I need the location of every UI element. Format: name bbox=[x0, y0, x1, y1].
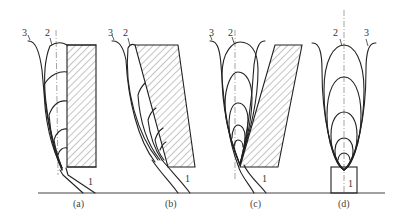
label-1-c: 1 bbox=[262, 173, 267, 184]
panel-d: 2 3 1 (d) bbox=[312, 10, 376, 210]
label-3-d: 3 bbox=[364, 27, 369, 38]
label-3-c: 3 bbox=[209, 27, 214, 38]
workpiece-c bbox=[240, 45, 302, 167]
label-1-b: 1 bbox=[185, 173, 190, 184]
curve-2-d bbox=[324, 45, 364, 170]
caption-b: (b) bbox=[165, 198, 177, 210]
caption-a: (a) bbox=[73, 198, 84, 210]
label-3-a: 3 bbox=[22, 27, 27, 38]
workpiece-a bbox=[67, 45, 96, 167]
label-1-d: 1 bbox=[348, 178, 353, 189]
label-2-b: 2 bbox=[123, 27, 128, 38]
electrode-a bbox=[60, 170, 83, 193]
caption-d: (d) bbox=[338, 198, 350, 210]
panel-a: 3 2 1 (a) bbox=[22, 27, 96, 210]
label-2-d: 2 bbox=[333, 27, 338, 38]
label-3-b: 3 bbox=[108, 27, 113, 38]
diagram-figure: 3 2 1 (a) 3 2 1 (b) bbox=[0, 0, 405, 224]
workpiece-b bbox=[135, 45, 195, 167]
label-2-a: 2 bbox=[45, 27, 50, 38]
label-1-a: 1 bbox=[88, 176, 93, 187]
panel-b: 3 2 1 (b) bbox=[108, 27, 195, 210]
label-2-c: 2 bbox=[228, 27, 233, 38]
caption-c: (c) bbox=[250, 198, 261, 210]
panel-c: 3 2 1 (c) bbox=[209, 27, 302, 210]
